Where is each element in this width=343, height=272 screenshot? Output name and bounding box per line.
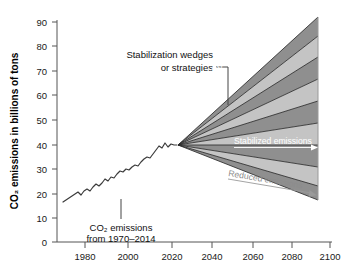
y-tick-label: 20 <box>36 189 47 200</box>
stabilized-emissions-label: Stabilized emissions <box>234 136 312 146</box>
y-tick-label: 30 <box>36 164 47 175</box>
y-tick-label: 70 <box>36 66 47 77</box>
historical-emissions-line <box>63 143 177 202</box>
historical-annotation-line2: from 1970–2014 <box>86 233 155 244</box>
x-tick-label: 2100 <box>319 251 340 262</box>
x-tick-labels: 1980 2000 2020 2040 2060 2080 2100 <box>74 251 340 262</box>
y-tick-label: 90 <box>36 17 47 28</box>
x-tick-label: 2000 <box>117 251 138 262</box>
x-tick-label: 2020 <box>161 251 182 262</box>
historical-annotation-line1: CO₂ emissions <box>90 222 153 233</box>
y-tick-label: 80 <box>36 41 47 52</box>
y-tick-label: 40 <box>36 140 47 151</box>
wedges-annotation-line2: or strategies <box>161 62 214 73</box>
historical-annotation: CO₂ emissions from 1970–2014 <box>86 199 155 244</box>
x-tick-label: 2060 <box>242 251 263 262</box>
x-tick-label: 2040 <box>201 251 222 262</box>
y-tick-label: 60 <box>36 90 47 101</box>
y-tick-labels: 90 80 70 60 50 40 30 20 10 0 <box>36 17 47 248</box>
y-tick-label: 50 <box>36 115 47 126</box>
y-tick-label: 10 <box>36 213 47 224</box>
y-axis-title: CO₂ emissions in billions of tons <box>9 52 20 209</box>
x-tick-label: 1980 <box>74 251 95 262</box>
wedges-annotation: Stabilization wedges or strategies <box>126 49 228 105</box>
y-tick-label: 0 <box>42 237 47 248</box>
y-axis-ticks <box>52 22 57 242</box>
chart-container: 90 80 70 60 50 40 30 20 10 0 1980 2000 2… <box>0 0 343 272</box>
emissions-wedge-chart: 90 80 70 60 50 40 30 20 10 0 1980 2000 2… <box>0 0 343 272</box>
x-tick-label: 2080 <box>281 251 302 262</box>
wedges-annotation-line1: Stabilization wedges <box>126 49 213 60</box>
